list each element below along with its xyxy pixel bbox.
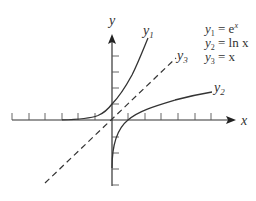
x-axis: x [12, 113, 248, 128]
x-axis-label: x [240, 113, 248, 128]
function-graph: x y y1 y3 y2 y1 = ex y2 = ln x y3 = x [0, 0, 256, 201]
legend: y1 = ex y2 = ln x y3 = x [203, 21, 249, 66]
curve-label-y1: y1 [141, 23, 154, 40]
y-axis: y [107, 13, 119, 186]
curve-label-y3: y3 [175, 48, 188, 65]
curve-y1-exponential [62, 38, 148, 120]
curve-label-y2: y2 [212, 80, 225, 97]
y-axis-label: y [107, 13, 116, 28]
curve-y2-logarithm [112, 92, 212, 168]
legend-item-y3: y3 = x [203, 49, 236, 66]
